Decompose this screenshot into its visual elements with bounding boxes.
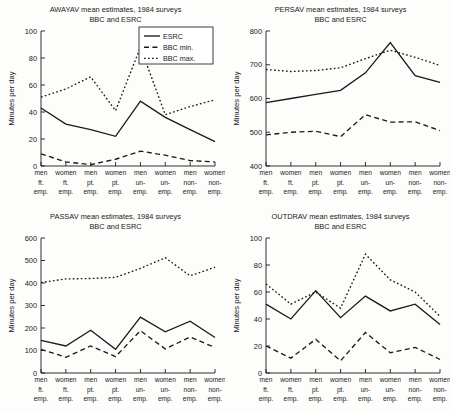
- figure-panel-grid: AWAYAV mean estimates, 1984 surveysBBC a…: [0, 0, 450, 413]
- chart-awayav: AWAYAV mean estimates, 1984 surveysBBC a…: [0, 0, 225, 206]
- chart-subtitle: BBC and ESRC: [89, 222, 142, 231]
- x-axis-ticks: menft.emp.womenft.emp.menpt.emp.womenpt.…: [259, 162, 450, 196]
- y-tick-label: 500: [250, 128, 262, 137]
- legend-label: BBC max.: [163, 54, 195, 63]
- y-axis-ticks: 0100200300400500600: [25, 234, 45, 378]
- x-tick-label: menun-emp.: [358, 169, 373, 196]
- y-tick-label: 200: [25, 324, 37, 333]
- y-tick-label: 600: [25, 234, 37, 243]
- y-tick-label: 40: [254, 315, 262, 324]
- y-tick-label: 80: [254, 261, 262, 270]
- y-tick-label: 300: [25, 301, 37, 310]
- series-group: [266, 42, 440, 136]
- x-tick-label: mennon-emp.: [183, 169, 198, 196]
- x-tick-label: menun-emp.: [133, 169, 148, 196]
- chart-panel-passav: PASSAV mean estimates, 1984 surveysBBC a…: [0, 207, 225, 413]
- series-group: [266, 254, 440, 361]
- y-axis-ticks: 400500600700800: [250, 27, 270, 171]
- chart-title: AWAYAV mean estimates, 1984 surveys: [50, 5, 182, 14]
- y-tick-label: 20: [29, 135, 37, 144]
- chart-legend: ESRCBBC min.BBC max.: [139, 27, 213, 64]
- y-tick-label: 60: [29, 81, 37, 90]
- y-axis-label: Minutes per day: [232, 278, 241, 332]
- y-tick-label: 40: [29, 108, 37, 117]
- chart-panel-outdrav: OUTDRAV mean estimates, 1984 surveysBBC …: [225, 207, 450, 413]
- x-tick-label: womennon-emp.: [428, 169, 450, 196]
- x-tick-label: womennon-emp.: [203, 376, 225, 403]
- series-line-esrc: [41, 317, 215, 349]
- legend-label: BBC min.: [163, 43, 193, 52]
- x-tick-label: mennon-emp.: [408, 376, 423, 403]
- series-line-bbc-min: [266, 115, 440, 137]
- x-tick-label: mennon-emp.: [408, 169, 423, 196]
- chart-persav: PERSAV mean estimates, 1984 surveysBBC a…: [225, 0, 450, 206]
- y-tick-label: 80: [29, 54, 37, 63]
- x-tick-label: menft.emp.: [259, 376, 274, 403]
- y-tick-label: 500: [25, 256, 37, 265]
- y-axis-label: Minutes per day: [232, 71, 241, 125]
- x-tick-label: womenpt.emp.: [104, 376, 127, 403]
- chart-title: PERSAV mean estimates, 1984 surveys: [275, 5, 407, 14]
- x-tick-label: womennon-emp.: [428, 376, 450, 403]
- x-tick-label: mennon-emp.: [183, 376, 198, 403]
- chart-panel-awayav: AWAYAV mean estimates, 1984 surveysBBC a…: [0, 0, 225, 206]
- x-tick-label: womenft.emp.: [54, 376, 77, 403]
- x-tick-label: womenun-emp.: [379, 376, 402, 403]
- x-tick-label: menft.emp.: [34, 376, 49, 403]
- series-line-esrc: [266, 42, 440, 102]
- x-tick-label: womenpt.emp.: [329, 376, 352, 403]
- y-tick-label: 100: [25, 27, 37, 36]
- x-tick-label: menpt.emp.: [308, 376, 323, 403]
- x-tick-label: womenun-emp.: [379, 169, 402, 196]
- x-tick-label: menpt.emp.: [83, 376, 98, 403]
- y-tick-label: 800: [250, 27, 262, 36]
- x-tick-label: womennon-emp.: [203, 169, 225, 196]
- y-tick-label: 700: [250, 60, 262, 69]
- x-axis-ticks: menft.emp.womenft.emp.menpt.emp.womenpt.…: [34, 369, 225, 403]
- x-tick-label: menun-emp.: [133, 376, 148, 403]
- x-tick-label: menpt.emp.: [83, 169, 98, 196]
- x-tick-label: menpt.emp.: [308, 169, 323, 196]
- chart-panel-persav: PERSAV mean estimates, 1984 surveysBBC a…: [225, 0, 450, 206]
- x-tick-label: menft.emp.: [259, 169, 274, 196]
- series-line-bbc-min: [41, 331, 215, 358]
- y-axis-ticks: 020406080100: [25, 27, 45, 171]
- chart-subtitle: BBC and ESRC: [314, 15, 367, 24]
- y-tick-label: 60: [254, 288, 262, 297]
- series-line-bbc-max: [266, 50, 440, 71]
- x-axis-ticks: menft.emp.womenft.emp.menpt.emp.womenpt.…: [259, 369, 450, 403]
- axis-lines: [41, 238, 215, 373]
- y-axis-ticks: 020406080100: [250, 234, 270, 378]
- series-line-bbc-min: [41, 151, 215, 165]
- x-axis-ticks: menft.emp.womenft.emp.menpt.emp.womenpt.…: [34, 162, 225, 196]
- y-tick-label: 100: [250, 234, 262, 243]
- legend-label: ESRC: [163, 32, 183, 41]
- series-line-bbc-max: [41, 258, 215, 283]
- x-tick-label: womenft.emp.: [279, 376, 302, 403]
- y-axis-label: Minutes per day: [7, 278, 16, 332]
- x-tick-label: womenft.emp.: [54, 169, 77, 196]
- x-tick-label: menun-emp.: [358, 376, 373, 403]
- chart-subtitle: BBC and ESRC: [89, 15, 142, 24]
- x-tick-label: womenft.emp.: [279, 169, 302, 196]
- y-tick-label: 600: [250, 94, 262, 103]
- y-tick-label: 100: [25, 346, 37, 355]
- chart-passav: PASSAV mean estimates, 1984 surveysBBC a…: [0, 207, 225, 413]
- chart-title: PASSAV mean estimates, 1984 surveys: [50, 212, 181, 221]
- chart-title: OUTDRAV mean estimates, 1984 surveys: [272, 212, 410, 221]
- axis-lines: [266, 238, 440, 373]
- x-tick-label: menft.emp.: [34, 169, 49, 196]
- series-group: [41, 47, 215, 164]
- chart-outdrav: OUTDRAV mean estimates, 1984 surveysBBC …: [225, 207, 450, 413]
- x-tick-label: womenun-emp.: [154, 376, 177, 403]
- x-tick-label: womenun-emp.: [154, 169, 177, 196]
- y-axis-label: Minutes per day: [7, 71, 16, 125]
- x-tick-label: womenpt.emp.: [329, 169, 352, 196]
- x-tick-label: womenpt.emp.: [104, 169, 127, 196]
- y-tick-label: 20: [254, 342, 262, 351]
- series-line-bbc-min: [266, 333, 440, 361]
- y-tick-label: 400: [25, 279, 37, 288]
- series-line-esrc: [266, 291, 440, 325]
- chart-subtitle: BBC and ESRC: [314, 222, 367, 231]
- series-group: [41, 258, 215, 357]
